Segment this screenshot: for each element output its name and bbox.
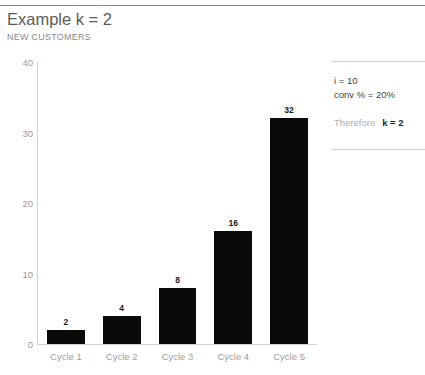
bar-rect[interactable] xyxy=(103,316,141,344)
x-axis-tick-label: Cycle 2 xyxy=(94,351,150,362)
y-axis-tick-label: 30 xyxy=(3,127,33,138)
side-note-line-1: i = 10 xyxy=(334,74,425,88)
bar-item[interactable]: 32 xyxy=(261,62,317,344)
x-axis-tick-label: Cycle 3 xyxy=(150,351,206,362)
side-panel-bottom-divider xyxy=(331,149,425,150)
bar-rect[interactable] xyxy=(270,118,308,344)
conclusion-value: k = 2 xyxy=(382,117,403,128)
bar-value-label: 2 xyxy=(38,317,94,327)
bar-value-label: 32 xyxy=(261,105,317,115)
y-axis-tick-label: 20 xyxy=(3,198,33,209)
header-divider xyxy=(0,5,425,6)
page-title: Example k = 2 xyxy=(7,9,317,29)
y-axis-tick-label: 10 xyxy=(3,268,33,279)
page-subtitle: NEW CUSTOMERS xyxy=(7,30,298,43)
conclusion-prefix: Therefore xyxy=(334,117,375,128)
y-axis-tick-labels: 010203040 xyxy=(0,62,33,344)
bar-item[interactable]: 8 xyxy=(150,62,206,344)
x-axis-tick-label: Cycle 1 xyxy=(38,351,94,362)
x-axis-line xyxy=(37,344,317,345)
bar-value-label: 4 xyxy=(94,303,150,313)
bar-item[interactable]: 16 xyxy=(205,62,261,344)
bar-item[interactable]: 2 xyxy=(38,62,94,344)
side-panel-spacer xyxy=(334,102,425,116)
slide-canvas: Example k = 2 NEW CUSTOMERS 010203040 24… xyxy=(0,0,425,375)
bar-rect[interactable] xyxy=(47,330,85,344)
side-note-line-2: conv % = 20% xyxy=(334,88,425,102)
bar-series: 2481632 xyxy=(38,62,317,344)
bar-value-label: 8 xyxy=(150,275,206,285)
bar-rect[interactable] xyxy=(159,288,197,344)
bar-chart: 010203040 2481632 Cycle 1Cycle 2Cycle 3C… xyxy=(0,55,320,375)
bar-rect[interactable] xyxy=(214,231,252,344)
y-axis-tick-label: 0 xyxy=(3,339,33,350)
top-cut-text-fragment xyxy=(6,0,306,3)
header: Example k = 2 NEW CUSTOMERS xyxy=(7,9,317,43)
x-axis-tick-label: Cycle 5 xyxy=(261,351,317,362)
side-note-conclusion: Thereforek = 2 xyxy=(334,116,425,130)
side-panel-body: i = 10 conv % = 20% Thereforek = 2 xyxy=(331,62,425,130)
bar-value-label: 16 xyxy=(205,218,261,228)
side-note-panel: i = 10 conv % = 20% Thereforek = 2 xyxy=(331,61,425,150)
x-axis-tick-labels: Cycle 1Cycle 2Cycle 3Cycle 4Cycle 5 xyxy=(38,351,317,371)
y-axis-tick-label: 40 xyxy=(3,57,33,68)
x-axis-tick-label: Cycle 4 xyxy=(205,351,261,362)
bar-item[interactable]: 4 xyxy=(94,62,150,344)
